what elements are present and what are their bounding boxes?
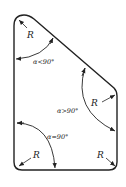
label-r-top-left: R [26, 30, 34, 40]
label-r-right: R [90, 98, 98, 108]
radius-arrow-bottom-left [19, 158, 31, 166]
label-angle-acute: α<90° [33, 58, 54, 66]
radius-arrow-bottom-right [106, 158, 115, 166]
angle-arc-right [17, 123, 55, 168]
label-angle-obtuse: α>90° [57, 107, 78, 115]
angle-arc-acute-start-arrow [50, 38, 53, 44]
diagram-canvas: R α<90° R α>90° α=90° R R [0, 0, 126, 187]
radius-arrow-top-left [19, 20, 27, 28]
radius-arrow-right [102, 95, 115, 102]
label-angle-right: α=90° [47, 133, 68, 141]
angle-arc-acute [16, 38, 53, 59]
label-r-bottom-left: R [32, 150, 40, 160]
label-r-bottom-right: R [96, 150, 104, 160]
angle-arc-obtuse [82, 68, 115, 131]
